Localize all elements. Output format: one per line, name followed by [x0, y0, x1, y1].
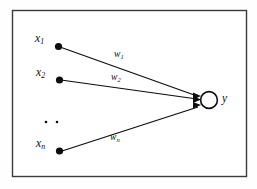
input-node-x1 [55, 43, 62, 50]
input-node-xn [56, 147, 63, 154]
weight-label-w1: w1 [114, 50, 124, 60]
input-label-x1: x1 [35, 33, 44, 45]
input-label-x2: x2 [36, 67, 45, 79]
input-node-x2 [56, 76, 63, 83]
weight-label-w2: w2 [111, 73, 121, 83]
diagram-canvas [0, 0, 257, 189]
output-label-y: y [222, 93, 227, 105]
neuron-diagram-figure: x1 x2 xn w1 w2 wn y [0, 0, 257, 189]
weight-label-wn: wn [110, 133, 120, 143]
ellipsis-dot-2 [56, 121, 59, 124]
ellipsis-dot-1 [45, 121, 48, 124]
output-neuron-circle [201, 92, 218, 109]
input-label-xn: xn [36, 138, 45, 150]
